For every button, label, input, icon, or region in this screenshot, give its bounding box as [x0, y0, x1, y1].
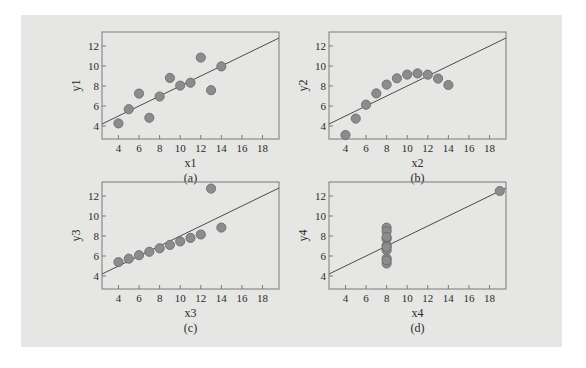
- x-tick-label: 8: [384, 292, 390, 304]
- y-tick-label: 12: [88, 40, 99, 52]
- regression-line: [329, 38, 506, 124]
- y-axis-label: y2: [296, 80, 310, 92]
- data-point: [382, 80, 391, 89]
- x-tick-label: 12: [195, 142, 206, 154]
- x-tick-label: 4: [343, 292, 349, 304]
- x-tick-label: 6: [136, 292, 142, 304]
- scatter-panel-a: 46810124681012141618x1y1(a): [69, 32, 279, 185]
- data-point: [145, 113, 154, 122]
- data-point: [361, 100, 370, 109]
- data-point: [176, 237, 185, 246]
- y-tick-label: 6: [321, 100, 327, 112]
- x-tick-label: 18: [484, 142, 496, 154]
- x-tick-label: 6: [363, 142, 369, 154]
- scatter-panel-d: 46810124681012141618x4y4(d): [296, 182, 506, 335]
- y-tick-label: 8: [321, 230, 327, 242]
- x-tick-label: 8: [157, 292, 163, 304]
- y-tick-label: 10: [88, 60, 100, 72]
- y-axis-label: y3: [69, 230, 83, 242]
- data-point: [444, 80, 453, 89]
- y-tick-label: 10: [315, 60, 327, 72]
- data-point: [495, 186, 504, 195]
- x-tick-label: 14: [443, 142, 455, 154]
- x-axis-label: x3: [185, 306, 197, 320]
- y-axis-label: y4: [296, 230, 310, 242]
- x-tick-label: 12: [422, 142, 433, 154]
- y-tick-label: 4: [94, 270, 100, 282]
- y-tick-label: 8: [94, 230, 100, 242]
- y-tick-label: 12: [315, 190, 326, 202]
- data-point: [217, 62, 226, 71]
- x-tick-label: 16: [463, 142, 475, 154]
- x-tick-label: 8: [157, 142, 163, 154]
- data-point: [413, 69, 422, 78]
- x-tick-label: 12: [422, 292, 433, 304]
- x-tick-label: 10: [175, 292, 187, 304]
- figure-canvas: 46810124681012141618x1y1(a)4681012468101…: [21, 15, 562, 347]
- data-point: [196, 53, 205, 62]
- data-point: [196, 230, 205, 239]
- data-point: [186, 233, 195, 242]
- x-tick-label: 6: [363, 292, 369, 304]
- y-tick-label: 12: [315, 40, 326, 52]
- y-tick-label: 12: [88, 190, 99, 202]
- data-point: [433, 74, 442, 83]
- x-tick-label: 18: [257, 292, 269, 304]
- scatter-panel-b: 46810124681012141618x2y2(b): [296, 32, 506, 185]
- x-tick-label: 18: [257, 142, 269, 154]
- y-tick-label: 6: [321, 250, 327, 262]
- y-tick-label: 8: [321, 80, 327, 92]
- data-point: [372, 89, 381, 98]
- x-tick-label: 8: [384, 142, 390, 154]
- y-tick-label: 6: [94, 250, 100, 262]
- data-point: [145, 247, 154, 256]
- data-point: [176, 81, 185, 90]
- x-tick-label: 4: [116, 142, 122, 154]
- data-point: [114, 119, 123, 128]
- x-tick-label: 4: [343, 142, 349, 154]
- data-point: [382, 256, 391, 265]
- x-tick-label: 4: [116, 292, 122, 304]
- x-axis-label: x1: [185, 156, 197, 170]
- x-tick-label: 16: [236, 142, 248, 154]
- x-tick-label: 14: [443, 292, 455, 304]
- x-axis-label: x2: [412, 156, 424, 170]
- y-tick-label: 4: [321, 120, 327, 132]
- data-point: [124, 105, 133, 114]
- data-point: [392, 74, 401, 83]
- data-point: [165, 73, 174, 82]
- x-tick-label: 16: [236, 292, 248, 304]
- x-axis-label: x4: [412, 306, 424, 320]
- x-tick-label: 14: [216, 142, 228, 154]
- y-axis-label: y1: [69, 80, 83, 92]
- x-tick-label: 16: [463, 292, 475, 304]
- data-point: [217, 223, 226, 232]
- y-tick-label: 4: [321, 270, 327, 282]
- data-point: [114, 258, 123, 267]
- data-point: [124, 254, 133, 263]
- panel-caption: (a): [184, 171, 197, 185]
- y-tick-label: 4: [94, 120, 100, 132]
- y-tick-label: 8: [94, 80, 100, 92]
- data-point: [155, 244, 164, 253]
- x-tick-label: 10: [175, 142, 187, 154]
- panel-caption: (d): [411, 321, 425, 335]
- x-tick-label: 6: [136, 142, 142, 154]
- data-point: [134, 251, 143, 260]
- data-point: [403, 70, 412, 79]
- plot-frame: [329, 182, 506, 289]
- scatter-panel-c: 46810124681012141618x3y3(c): [69, 182, 279, 335]
- data-point: [206, 184, 215, 193]
- data-point: [351, 114, 360, 123]
- panel-caption: (b): [411, 171, 425, 185]
- x-tick-label: 18: [484, 292, 496, 304]
- data-point: [206, 86, 215, 95]
- x-tick-label: 12: [195, 292, 206, 304]
- data-point: [382, 243, 391, 252]
- data-point: [423, 70, 432, 79]
- data-point: [341, 130, 350, 139]
- anscombe-figure: 46810124681012141618x1y1(a)4681012468101…: [21, 15, 562, 347]
- panel-caption: (c): [184, 321, 197, 335]
- data-point: [165, 240, 174, 249]
- y-tick-label: 10: [88, 210, 100, 222]
